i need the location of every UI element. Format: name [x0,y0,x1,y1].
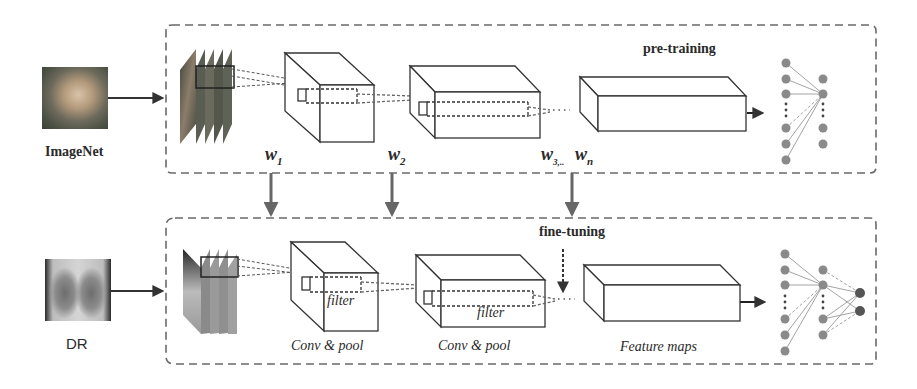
conv-pool-label-1: Conv & pool [291,338,363,354]
pretraining-conv-block-1 [285,53,412,142]
finetuning-conv-block-1 [291,242,418,331]
pretraining-conv-block-2 [410,66,570,138]
dr-input-stack [183,249,295,334]
imagenet-label: ImageNet [45,144,103,160]
finetuning-stage-label: fine-tuning [539,224,605,240]
transfer-learning-diagram [0,0,917,389]
pretraining-fc-layer [782,59,828,165]
weight-w1-label: w1 [265,144,283,167]
pretraining-stage-label: pre-training [643,41,716,57]
conv-pool-label-2: Conv & pool [438,338,510,354]
imagenet-input-stack [180,49,290,144]
feature-maps-label: Feature maps [620,339,697,355]
weight-w2-label: w2 [388,144,406,167]
weight-wn-label: wn [575,144,593,167]
dr-chest-xray-image [45,259,111,321]
finetuning-fc-layer [781,250,866,356]
weight-w3-label: w3,.. [541,144,564,167]
finetuning-panel [166,218,876,364]
filter-label-2: filter [477,305,504,321]
filter-label-1: filter [327,293,354,309]
pretraining-feature-maps-block [580,77,746,131]
finetuning-feature-maps-block [584,265,740,321]
dr-label: DR [66,335,88,352]
imagenet-cat-image [42,67,108,129]
